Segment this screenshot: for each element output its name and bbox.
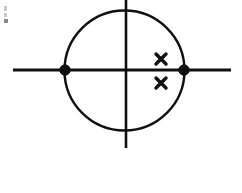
figure-background <box>0 0 242 193</box>
scan-speck-middle <box>4 13 7 17</box>
geometry-diagram <box>0 0 242 193</box>
figure-container: Circle centered on coordinate axes with … <box>0 0 242 193</box>
left-intersection-point <box>60 65 70 75</box>
scan-speck-lower <box>4 19 8 23</box>
right-intersection-point <box>179 65 189 75</box>
scan-speck-upper <box>4 6 7 11</box>
